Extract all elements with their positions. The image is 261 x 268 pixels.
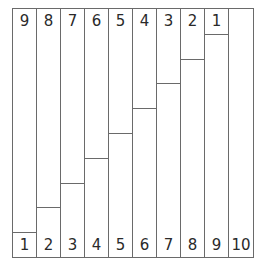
column-1: 91 <box>13 9 37 257</box>
column-6: 46 <box>133 9 157 257</box>
column-9: 19 <box>205 9 229 257</box>
bottom-label: 5 <box>109 233 132 257</box>
bottom-label: 8 <box>181 233 204 257</box>
bottom-label: 3 <box>61 233 84 257</box>
top-label: 4 <box>133 9 156 33</box>
column-2: 82 <box>37 9 61 257</box>
divider-line <box>61 183 84 184</box>
divider-line <box>181 59 204 60</box>
bottom-label: 7 <box>157 233 180 257</box>
column-5: 55 <box>109 9 133 257</box>
column-4: 64 <box>85 9 109 257</box>
top-label: 6 <box>85 9 108 33</box>
column-8: 28 <box>181 9 205 257</box>
divider-line <box>157 83 180 84</box>
top-label: 8 <box>37 9 60 33</box>
bottom-label: 2 <box>37 233 60 257</box>
top-label <box>229 9 253 33</box>
bottom-label: 10 <box>229 233 253 257</box>
column-7: 37 <box>157 9 181 257</box>
divider-line <box>205 34 228 35</box>
top-label: 2 <box>181 9 204 33</box>
top-label: 3 <box>157 9 180 33</box>
divider-line <box>85 158 108 159</box>
top-label: 7 <box>61 9 84 33</box>
column-3: 73 <box>61 9 85 257</box>
bottom-label: 4 <box>85 233 108 257</box>
bottom-label: 1 <box>13 233 36 257</box>
divider-line <box>37 207 60 208</box>
divider-line <box>133 108 156 109</box>
staircase-diagram: 91827364554637281910 <box>12 8 254 258</box>
bottom-label: 6 <box>133 233 156 257</box>
column-10: 10 <box>229 9 253 257</box>
bottom-label: 9 <box>205 233 228 257</box>
divider-line <box>109 133 132 134</box>
top-label: 9 <box>13 9 36 33</box>
top-label: 5 <box>109 9 132 33</box>
top-label: 1 <box>205 9 228 33</box>
